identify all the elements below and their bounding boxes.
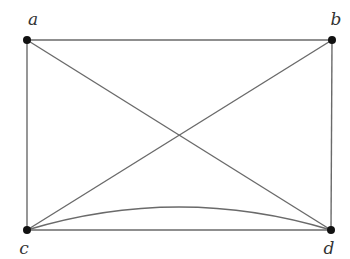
vertex-b — [328, 36, 336, 44]
vertex-label-a: a — [28, 9, 38, 29]
edge-b-d — [331, 40, 332, 230]
vertex-label-c: c — [19, 238, 29, 258]
vertex-label-d: d — [324, 238, 335, 258]
vertex-label-b: b — [331, 9, 342, 29]
vertex-a — [23, 36, 31, 44]
vertex-c — [23, 226, 31, 234]
vertex-d — [327, 226, 335, 234]
graph-diagram: abcd — [0, 0, 350, 259]
edges — [27, 40, 332, 230]
edge-c-d-curved — [27, 207, 331, 230]
